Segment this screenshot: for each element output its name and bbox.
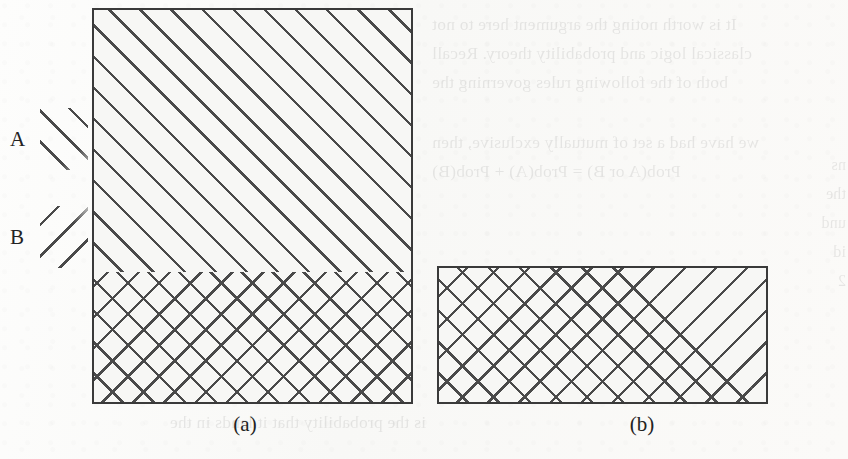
figure-b-caption: (b) (602, 412, 682, 437)
legend-item-b: B (10, 206, 88, 268)
figure-a-caption: (a) (205, 412, 285, 437)
figure-b-rectangle (437, 266, 768, 404)
legend-item-a: A (10, 108, 88, 170)
figure-a-region-a-and-b (94, 272, 411, 402)
legend-swatch-b-back-slash-icon (40, 206, 88, 268)
hatch-a-fill (94, 10, 411, 272)
hatch-b-fill (94, 272, 411, 402)
figure-a-rectangle (92, 8, 413, 404)
legend-label-b: B (10, 227, 34, 248)
legend-label-a: A (10, 129, 34, 150)
figure-a-region-a-only (94, 10, 411, 272)
hatch-a-fill (40, 108, 88, 170)
hatch-b-fill (40, 206, 88, 268)
legend-swatch-a-forward-slash-icon (40, 108, 88, 170)
